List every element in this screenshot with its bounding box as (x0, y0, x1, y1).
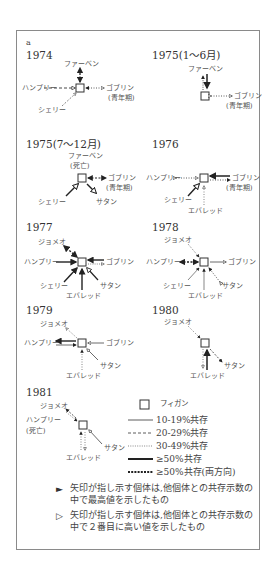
legend-figan-label: フィガン (160, 399, 188, 409)
network-1975-h1 (201, 74, 232, 100)
node-label: ゴブリン (108, 174, 136, 182)
node-label: (死亡) (26, 427, 45, 435)
node-label: ハンプリー (26, 416, 61, 424)
node-label: ファーベン (68, 152, 103, 160)
node-label: エバレッド (190, 372, 225, 380)
note-text-filled: 矢印が指し示す個体は,他個体との共存示数の中で最高値を示したもの (70, 482, 260, 506)
node-label: シェリー (38, 106, 66, 114)
node-label: サタン (96, 198, 117, 206)
legend-item-label: 10-19%共存 (156, 415, 209, 425)
year-label-1977: 1977 (26, 222, 53, 233)
node-label: (青年期) (106, 184, 132, 192)
figan-node-icon (76, 84, 84, 92)
node-label: ジョメオ (40, 320, 68, 328)
year-label-1976: 1976 (152, 139, 179, 150)
node-label: シェリー (163, 282, 191, 290)
year-label-1975-h2: 1975(7～12月) (26, 139, 101, 150)
node-label: ハンプリー (24, 339, 59, 347)
year-label-1979: 1979 (26, 305, 53, 316)
node-label: ハンプリー (146, 174, 181, 182)
node-label: エバレッド (66, 372, 101, 380)
legend-figan-square-icon (140, 400, 149, 409)
legend-item-label: 30-49%共存 (156, 441, 209, 451)
figan-node-icon (201, 339, 209, 347)
node-label: ファーベン (188, 65, 223, 73)
year-label-1978: 1978 (152, 222, 179, 233)
legend-item-label: 20-29%共存 (156, 428, 209, 438)
node-label: エバレッド (188, 207, 223, 215)
node-label: (青年期) (226, 102, 252, 110)
figan-node-icon (78, 174, 86, 182)
node-label: サタン (100, 362, 121, 370)
node-label: ファーベン (64, 60, 99, 68)
legend-item-label: ≥50%共存(両方向) (156, 467, 236, 477)
node-label: ゴブリン (106, 339, 134, 347)
node-label: ゴブリン (106, 84, 134, 92)
figan-node-icon (78, 258, 86, 266)
legend-item-label: ≥50%共存 (156, 454, 202, 464)
year-label-1974: 1974 (26, 50, 53, 61)
node-label: ジョメオ (164, 318, 192, 326)
node-label: ゴブリン (232, 174, 260, 182)
note-text-open: 矢印が指し示す個体は,他個体との共存示数の中で２番目に高い値を示したもの (70, 509, 260, 533)
node-label: サタン (224, 362, 245, 370)
node-label: ゴブリン (228, 258, 256, 266)
node-label: サタン (222, 282, 243, 290)
node-label: シェリー (38, 198, 66, 206)
node-label: (青年期) (108, 94, 134, 102)
node-label: ジョメオ (38, 238, 66, 246)
node-label: ハンプリー (22, 84, 57, 92)
node-label: ジョメオ (164, 236, 192, 244)
figan-node-icon (200, 174, 208, 182)
figan-node-icon (78, 339, 86, 347)
year-label-1981: 1981 (26, 387, 53, 398)
node-label: ジョメオ (40, 402, 68, 410)
figan-node-icon (200, 258, 208, 266)
network-1981 (66, 409, 102, 450)
node-label: ゴブリン (234, 92, 262, 100)
node-label: (青年期) (226, 184, 252, 192)
node-label: ゴブリン (106, 258, 134, 266)
network-1980 (188, 326, 222, 370)
node-label: シェリー (40, 282, 68, 290)
node-label: サタン (100, 282, 121, 290)
node-label: ハンプリー (24, 258, 59, 266)
legend-graphics (128, 400, 153, 472)
node-label: ハンプリー (146, 258, 181, 266)
filled-arrowhead-icon: ► (56, 484, 63, 494)
open-arrowhead-icon: ▷ (56, 511, 63, 521)
node-label: エバレッド (66, 454, 101, 462)
node-label: サタン (104, 444, 125, 452)
node-label: エバレッド (188, 292, 223, 300)
year-label-1975-h1: 1975(1～6月) (152, 50, 220, 61)
figan-node-icon (201, 92, 209, 100)
network-1975-h2 (66, 174, 106, 196)
network-1979 (56, 328, 104, 370)
figan-node-icon (79, 421, 87, 429)
node-label: シェリー (164, 196, 192, 204)
year-label-1980: 1980 (152, 305, 179, 316)
node-label: エバレッド (66, 292, 101, 300)
node-label: (死亡) (70, 162, 89, 170)
